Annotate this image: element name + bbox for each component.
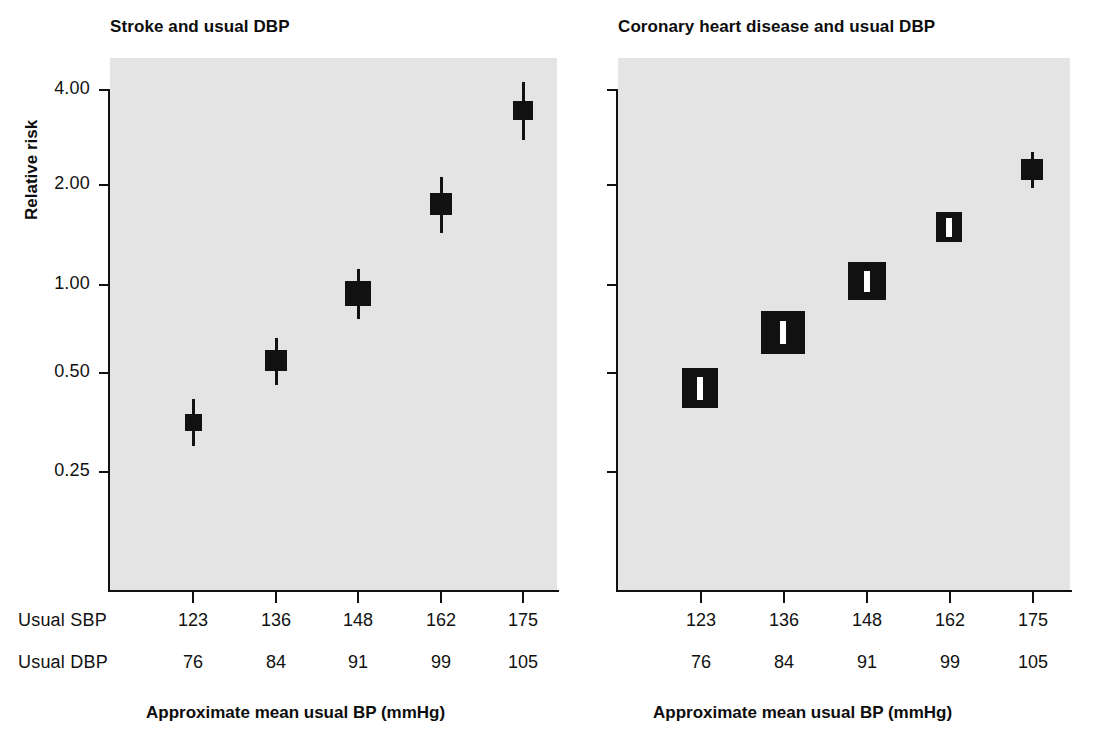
dbp-value-5-chd: 105 <box>1003 652 1063 673</box>
marker-square-1 <box>185 414 202 431</box>
y-tick-0-25-chd <box>607 471 618 473</box>
plot-area-chd <box>618 58 1070 590</box>
row-label-usual-dbp: Usual DBP <box>18 652 108 673</box>
x-tick-2-chd <box>783 592 785 603</box>
x-axis-title-stroke: Approximate mean usual BP (mmHg) <box>146 703 445 723</box>
error-bar-3-chd <box>864 271 870 292</box>
x-tick-1-chd <box>700 592 702 603</box>
row-label-usual-sbp: Usual SBP <box>18 610 107 631</box>
sbp-value-2-chd: 136 <box>754 610 814 631</box>
y-tick-4 <box>99 89 110 91</box>
sbp-value-4: 162 <box>411 610 471 631</box>
y-tick-2-chd <box>607 184 618 186</box>
x-axis-title-chd: Approximate mean usual BP (mmHg) <box>653 703 952 723</box>
y-tick-label-0-25: 0.25 <box>20 460 90 481</box>
x-tick-3 <box>357 592 359 603</box>
dbp-value-1: 76 <box>163 652 223 673</box>
y-tick-0-50-chd <box>607 372 618 374</box>
y-tick-label-2: 2.00 <box>20 173 90 194</box>
x-axis-line-chd <box>616 590 1072 592</box>
sbp-value-1: 123 <box>163 610 223 631</box>
sbp-value-3: 148 <box>328 610 388 631</box>
x-tick-2 <box>275 592 277 603</box>
y-axis-line-chd <box>616 90 618 592</box>
y-tick-0-25 <box>99 471 110 473</box>
y-tick-4-chd <box>607 89 618 91</box>
sbp-value-5-chd: 175 <box>1003 610 1063 631</box>
y-tick-label-4: 4.00 <box>20 78 90 99</box>
panel-title-stroke: Stroke and usual DBP <box>110 17 290 37</box>
y-tick-0-50 <box>99 372 110 374</box>
error-bar-1-chd <box>697 377 703 400</box>
sbp-value-3-chd: 148 <box>837 610 897 631</box>
y-tick-2 <box>99 184 110 186</box>
y-tick-label-1: 1.00 <box>20 273 90 294</box>
x-tick-4 <box>440 592 442 603</box>
error-bar-2-chd <box>780 321 786 344</box>
marker-square-2 <box>265 350 287 371</box>
figure-sheet: Stroke and usual DBP Relative risk 4.00 … <box>0 0 1093 750</box>
sbp-value-1-chd: 123 <box>671 610 731 631</box>
dbp-value-4-chd: 99 <box>920 652 980 673</box>
plot-area-stroke <box>110 58 557 590</box>
dbp-value-2-chd: 84 <box>754 652 814 673</box>
dbp-value-2: 84 <box>246 652 306 673</box>
marker-square-4 <box>430 193 452 215</box>
y-axis-title-stroke: Relative risk <box>22 120 42 220</box>
marker-square-5-chd <box>1021 159 1043 180</box>
x-tick-5 <box>522 592 524 603</box>
marker-square-5 <box>513 101 533 120</box>
dbp-value-3-chd: 91 <box>837 652 897 673</box>
error-bar-4-chd <box>946 218 952 237</box>
y-tick-1-chd <box>607 284 618 286</box>
y-axis-line-stroke <box>108 90 110 592</box>
x-tick-5-chd <box>1032 592 1034 603</box>
x-axis-line-stroke <box>108 590 559 592</box>
sbp-value-2: 136 <box>246 610 306 631</box>
dbp-value-4: 99 <box>411 652 471 673</box>
panel-chd: Coronary heart disease and usual DBP <box>533 0 1093 750</box>
dbp-value-3: 91 <box>328 652 388 673</box>
marker-square-3 <box>345 281 371 306</box>
x-tick-4-chd <box>949 592 951 603</box>
panel-title-chd: Coronary heart disease and usual DBP <box>618 17 935 37</box>
x-tick-3-chd <box>866 592 868 603</box>
dbp-value-1-chd: 76 <box>671 652 731 673</box>
panel-stroke: Stroke and usual DBP Relative risk 4.00 … <box>0 0 560 750</box>
sbp-value-4-chd: 162 <box>920 610 980 631</box>
y-tick-1 <box>99 284 110 286</box>
x-tick-1 <box>192 592 194 603</box>
y-tick-label-0-50: 0.50 <box>20 361 90 382</box>
